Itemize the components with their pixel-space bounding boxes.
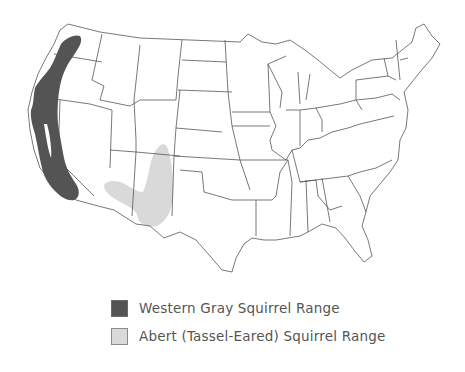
legend-label: Western Gray Squirrel Range (139, 300, 340, 316)
legend-label: Abert (Tassel-Eared) Squirrel Range (139, 328, 385, 344)
state-boundaries (28, 24, 440, 272)
us-range-map (0, 0, 465, 290)
abert-swatch (111, 328, 128, 345)
map-legend: Western Gray Squirrel Range Abert (Tasse… (111, 297, 385, 353)
abert-squirrel-range (104, 144, 173, 227)
legend-item-western-gray: Western Gray Squirrel Range (111, 297, 385, 319)
western-gray-swatch (111, 300, 128, 317)
legend-item-abert: Abert (Tassel-Eared) Squirrel Range (111, 325, 385, 347)
